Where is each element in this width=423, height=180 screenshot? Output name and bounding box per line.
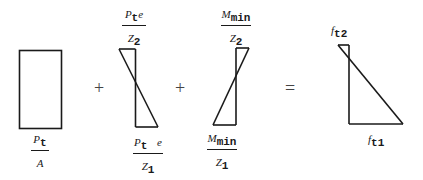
numerator-base: P <box>125 8 132 20</box>
numerator-subscript: t <box>40 137 47 149</box>
numerator-subscript: min <box>217 136 237 148</box>
numerator-base: M <box>208 132 217 144</box>
equals-operator: = <box>285 79 295 97</box>
fraction-bar <box>133 153 163 154</box>
denominator-base: Z <box>128 32 134 44</box>
axial-stress-label: Pt A <box>30 131 50 171</box>
numerator-base: M <box>222 8 231 20</box>
moment-top-label: Mmin Z2 <box>216 6 256 46</box>
plus-operator-2: + <box>175 79 185 97</box>
minimum-moment-bowtie <box>213 48 249 125</box>
denominator-base: Z <box>142 160 148 172</box>
denominator-subscript: 1 <box>148 164 155 176</box>
numerator-subscript: min <box>231 12 251 24</box>
moment-bottom-label: Mmin Z1 <box>202 130 242 170</box>
axial-stress-rectangle <box>20 51 62 129</box>
numerator-base: P <box>134 136 141 148</box>
bottom-fiber-stress-label: ft1 <box>368 134 384 146</box>
eccentric-bottom-label: Pt e Z1 <box>130 134 166 174</box>
denominator-base: Z <box>230 32 236 44</box>
eccentric-top-label: Pte Z2 <box>116 6 152 46</box>
numerator-subscript: t <box>141 140 148 152</box>
denominator-base: A <box>37 157 44 169</box>
plus-operator-1: + <box>94 79 104 97</box>
numerator-subscript: t <box>132 12 139 24</box>
numerator-suffix: e <box>157 136 162 148</box>
top-fiber-stress-label: ft2 <box>331 25 347 37</box>
denominator-subscript: 2 <box>236 36 243 48</box>
resultant-stress-triangle <box>338 45 403 124</box>
numerator-suffix: e <box>138 8 143 20</box>
denominator-base: Z <box>216 156 222 168</box>
denominator-subscript: 2 <box>134 36 141 48</box>
stress-subscript: t1 <box>371 137 384 149</box>
denominator-subscript: 1 <box>222 160 229 172</box>
fraction-bar <box>207 149 237 150</box>
fraction-bar <box>221 25 251 26</box>
fraction-bar <box>122 25 146 26</box>
eccentric-prestress-bowtie <box>119 49 158 127</box>
fraction-bar <box>31 150 49 151</box>
stress-subscript: t2 <box>334 28 347 40</box>
